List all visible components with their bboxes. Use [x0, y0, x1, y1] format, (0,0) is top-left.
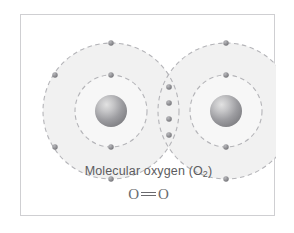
shared-electron-4 — [166, 132, 172, 138]
shared-electron-3 — [166, 116, 172, 122]
electron-outer-left-upperleft — [52, 72, 57, 77]
caption-name-prefix: Molecular oxygen (O — [85, 164, 203, 178]
electron-inner-right-bottom — [223, 144, 228, 149]
nucleus-right — [210, 95, 242, 127]
electron-inner-left-bottom — [108, 144, 113, 149]
figure-caption: Molecular oxygen (O2) O O — [21, 163, 276, 204]
caption-structural-formula: O O — [128, 184, 169, 204]
electron-outer-right-top — [223, 40, 228, 45]
formula-atom-right: O — [158, 184, 169, 204]
shared-electron-1 — [166, 84, 172, 90]
figure-frame: Molecular oxygen (O2) O O — [20, 14, 275, 216]
shared-electron-2 — [166, 100, 172, 106]
oxygen-molecule-figure: Molecular oxygen (O2) O O — [0, 0, 294, 233]
formula-atom-left: O — [128, 184, 139, 204]
double-bond-icon — [141, 191, 156, 197]
nucleus-left — [95, 95, 127, 127]
caption-name-suffix: ) — [208, 164, 212, 178]
electron-inner-right-top — [223, 72, 228, 77]
diagram-area: Molecular oxygen (O2) O O — [21, 15, 276, 217]
caption-molecule-name: Molecular oxygen (O2) — [21, 163, 276, 182]
electron-outer-left-lowerleft — [52, 144, 57, 149]
electron-outer-left-top — [108, 40, 113, 45]
bond-formula: O O — [128, 184, 169, 204]
electron-inner-left-top — [108, 72, 113, 77]
